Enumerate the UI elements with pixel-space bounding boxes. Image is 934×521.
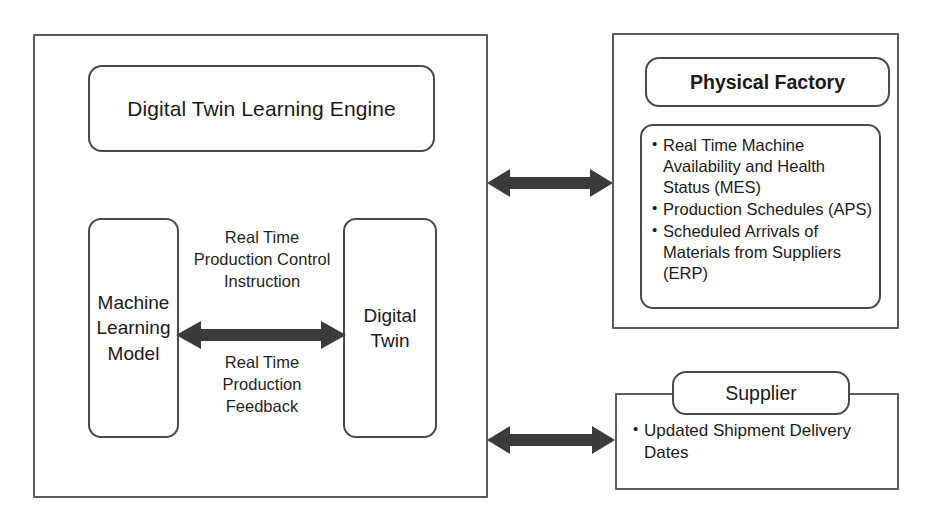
physical-factory-title-box[interactable]: Physical Factory <box>645 57 890 107</box>
engine-to-supplier-bidirectional-arrow-icon <box>486 420 616 460</box>
digital-twin-label: Digital Twin <box>364 303 417 354</box>
digital-twin-learning-engine-box[interactable]: Digital Twin Learning Engine <box>88 65 435 152</box>
machine-learning-model-box[interactable]: Machine Learning Model <box>88 218 179 438</box>
list-item: Real Time Machine Availability and Healt… <box>652 135 875 198</box>
list-item: Production Schedules (APS) <box>652 199 875 220</box>
digital-twin-learning-engine-label: Digital Twin Learning Engine <box>127 97 396 121</box>
real-time-production-control-instruction-label: Real Time Production Control Instruction <box>179 227 345 292</box>
diagram-canvas: Digital Twin Learning Engine Machine Lea… <box>0 0 934 521</box>
physical-factory-title: Physical Factory <box>690 71 845 94</box>
supplier-data-box[interactable]: Updated Shipment Delivery Dates <box>619 418 895 480</box>
digital-twin-box[interactable]: Digital Twin <box>343 218 437 438</box>
engine-to-factory-bidirectional-arrow-icon <box>486 163 614 203</box>
machine-learning-model-label: Machine Learning Model <box>97 290 171 366</box>
list-item: Updated Shipment Delivery Dates <box>633 420 891 464</box>
supplier-item-list: Updated Shipment Delivery Dates <box>619 418 895 465</box>
physical-factory-data-box[interactable]: Real Time Machine Availability and Healt… <box>640 124 881 309</box>
list-item: Scheduled Arrivals of Materials from Sup… <box>652 221 875 284</box>
supplier-title-box[interactable]: Supplier <box>672 371 850 415</box>
supplier-title: Supplier <box>725 382 797 405</box>
real-time-production-feedback-label: Real Time Production Feedback <box>179 352 345 417</box>
ml-to-digital-twin-bidirectional-arrow-icon <box>175 315 347 355</box>
physical-factory-item-list: Real Time Machine Availability and Healt… <box>642 126 883 291</box>
